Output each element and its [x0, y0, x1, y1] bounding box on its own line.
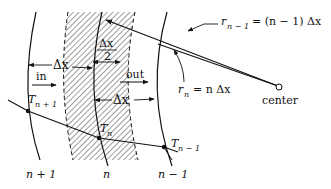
leader-r-n-minus-1: [188, 24, 218, 31]
svg-text:n − 1: n − 1: [227, 22, 249, 31]
node-T-n-minus-1: [162, 145, 166, 149]
dx-mid-right-arrow: [134, 99, 154, 100]
svg-text:= n Δx: = n Δx: [193, 83, 231, 96]
center-point: [276, 84, 282, 90]
svg-text:n + 1: n + 1: [35, 100, 57, 109]
arc-n-minus-1: [157, 12, 172, 166]
svg-text:= (n − 1) Δx: = (n − 1) Δx: [252, 15, 322, 28]
out-label: out: [126, 68, 145, 81]
dx-mid-label: Δx: [113, 93, 129, 107]
T-n-minus-1-tick: [165, 149, 172, 160]
half-dx-numerator: Δx: [99, 37, 114, 50]
ray-r-n: [158, 44, 278, 86]
arc-n-plus-1: [28, 12, 40, 160]
half-dx-denominator: 2: [104, 50, 111, 63]
dx-top-label: Δx: [53, 58, 69, 72]
svg-text:n − 1: n − 1: [178, 144, 200, 153]
node-n-minus-1-label: n − 1: [158, 168, 188, 181]
node-n-plus-1-label: n + 1: [26, 168, 56, 181]
T-n-plus-1-label: T n + 1: [28, 93, 57, 109]
center-label: center: [262, 94, 299, 107]
r-n-minus-1-label: r n − 1 = (n − 1) Δx: [221, 15, 322, 31]
node-n-label: n: [103, 168, 110, 181]
leader-r-n: [174, 50, 184, 82]
svg-text:n: n: [184, 90, 189, 99]
in-label: in: [36, 70, 47, 83]
shell-diagram: Δx Δx 2 in out Δx r n − 1 = (n − 1) Δx r…: [0, 0, 331, 189]
node-T-n-plus-1: [26, 109, 30, 113]
node-T-n: [97, 136, 101, 140]
r-n-label: r n = n Δx: [178, 83, 231, 99]
svg-text:n: n: [107, 129, 112, 138]
